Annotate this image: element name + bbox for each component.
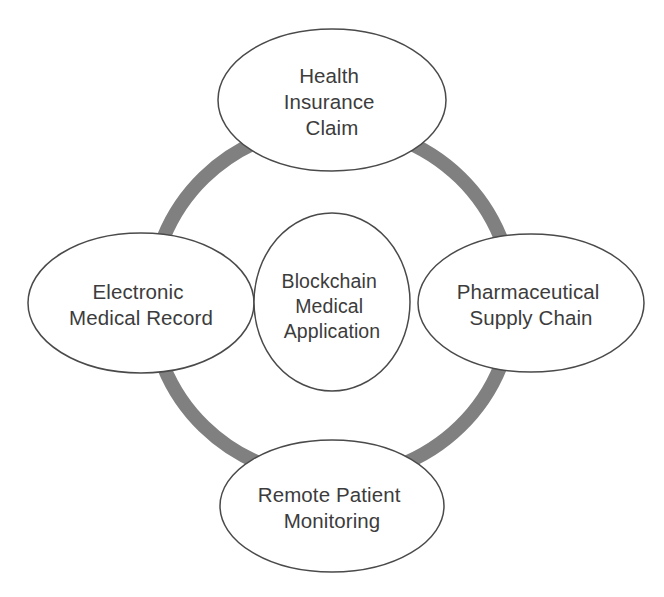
diagram-svg: Health Insurance Claim Pharmaceutical Su… <box>0 0 664 597</box>
node-ellipse-bottom[interactable] <box>220 440 444 572</box>
node-label-bottom-line-1: Remote Patient <box>258 483 401 506</box>
hub-label-center: Blockchain Medical Application <box>282 270 383 342</box>
node-electronic-medical-record[interactable]: Electronic Medical Record <box>28 233 254 373</box>
node-label-top-line-1: Health <box>299 64 359 87</box>
node-label-top-line-3: Claim <box>306 116 359 139</box>
node-label-left-line-1: Electronic <box>93 280 184 303</box>
node-label-right-line-2: Supply Chain <box>469 306 592 329</box>
node-label-left-line-2: Medical Record <box>69 306 213 329</box>
node-label-right-line-1: Pharmaceutical <box>457 280 600 303</box>
node-pharmaceutical-supply-chain[interactable]: Pharmaceutical Supply Chain <box>418 234 644 372</box>
node-remote-patient-monitoring[interactable]: Remote Patient Monitoring <box>220 440 444 572</box>
node-ellipse-right[interactable] <box>418 234 644 372</box>
node-blockchain-medical-application[interactable]: Blockchain Medical Application <box>254 213 410 391</box>
node-label-top-line-2: Insurance <box>284 90 375 113</box>
node-ellipse-left[interactable] <box>28 233 254 373</box>
diagram-canvas: Health Insurance Claim Pharmaceutical Su… <box>0 0 664 597</box>
hub-label-line-3: Application <box>284 320 381 342</box>
node-health-insurance-claim[interactable]: Health Insurance Claim <box>218 29 446 171</box>
node-label-bottom-line-2: Monitoring <box>284 509 381 532</box>
hub-label-line-1: Blockchain <box>282 270 377 292</box>
hub-label-line-2: Medical <box>295 295 363 317</box>
